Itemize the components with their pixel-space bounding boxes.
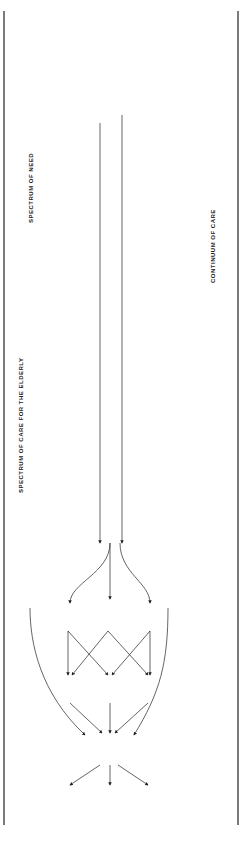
- diagram-lines: [0, 0, 245, 843]
- spectrum-of-need-header: SPECTRUM OF NEED: [28, 153, 34, 223]
- diagram-stage: SPECTRUM OF NEED SPECTRUM OF CARE FOR TH…: [0, 0, 245, 843]
- continuum-of-care-header: CONTINUUM OF CARE: [210, 209, 216, 283]
- spectrum-of-care-header: SPECTRUM OF CARE FOR THE ELDERLY: [18, 358, 24, 493]
- rotated-diagram: SPECTRUM OF NEED SPECTRUM OF CARE FOR TH…: [0, 0, 245, 843]
